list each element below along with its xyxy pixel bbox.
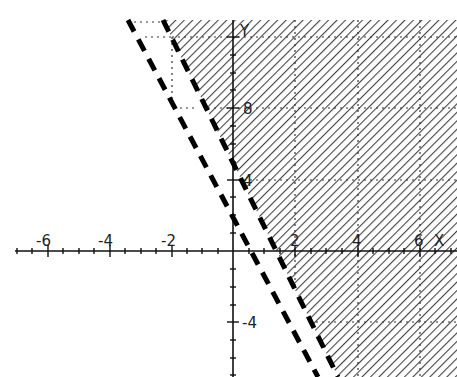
inequality-graph: -6 -4 -2 2 4 6 X 8 4 -4 Y	[0, 0, 457, 377]
x-tick-label: 2	[290, 232, 300, 250]
y-axis-label: Y	[239, 22, 250, 40]
y-tick-label: 8	[243, 100, 253, 118]
x-tick-label: -6	[36, 232, 51, 250]
x-tick-label: 6	[414, 232, 424, 250]
x-tick-label: -4	[98, 232, 113, 250]
x-axis-label: X	[434, 232, 444, 250]
x-tick-label: -2	[161, 232, 176, 250]
y-tick-label: -4	[242, 314, 257, 332]
y-tick-label: 4	[243, 172, 253, 190]
x-tick-label: 4	[352, 232, 362, 250]
